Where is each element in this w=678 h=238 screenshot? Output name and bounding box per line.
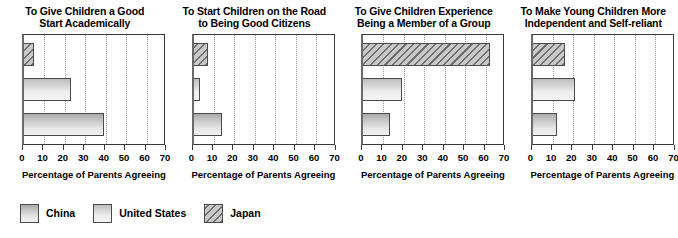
- axis-tick: [124, 145, 125, 150]
- x-axis-label: Percentage of Parents Agreeing: [192, 166, 340, 180]
- chart-panel: To Make Young Children MoreIndependent a…: [509, 0, 678, 192]
- axis-tick-label: 60: [309, 152, 320, 163]
- axis-tick: [212, 145, 213, 150]
- axis-tick: [253, 145, 254, 150]
- plot-frame: [192, 34, 335, 145]
- axis-tick-label: 50: [458, 152, 469, 163]
- bar-group: [533, 35, 673, 144]
- panel-title-line: Start Academically: [6, 17, 164, 29]
- x-axis-label: Percentage of Parents Agreeing: [22, 166, 170, 180]
- axis-tick-label: 30: [417, 152, 428, 163]
- bar-us: [533, 78, 576, 101]
- bar-china: [533, 113, 558, 136]
- bar-china: [194, 113, 223, 136]
- axis-tick-label: 40: [607, 152, 618, 163]
- panel-title: To Start Children on the Roadto Being Go…: [170, 0, 340, 34]
- chart-panel: To Give Children ExperienceBeing a Membe…: [339, 0, 509, 192]
- plot-frame: [361, 34, 504, 145]
- axis-tick: [633, 145, 634, 150]
- bar-group: [194, 35, 334, 144]
- axis-tick: [484, 145, 485, 150]
- axis-tick-label: 60: [478, 152, 489, 163]
- axis-tick: [531, 145, 532, 150]
- axis-tick: [443, 145, 444, 150]
- chart-panel-row: To Give Children a GoodStart Academicall…: [0, 0, 678, 192]
- legend-item-japan: Japan: [204, 204, 260, 223]
- chart-panel: To Start Children on the Roadto Being Go…: [170, 0, 340, 192]
- axis-tick: [402, 145, 403, 150]
- axis-tick: [22, 145, 23, 150]
- axis-tick: [571, 145, 572, 150]
- axis-tick-label: 30: [586, 152, 597, 163]
- plot-frame: [531, 34, 674, 145]
- axis-tick: [273, 145, 274, 150]
- axis-tick-label: 50: [288, 152, 299, 163]
- bar-group: [24, 35, 164, 144]
- bar-us: [24, 78, 71, 101]
- panel-title-line: To Start Children on the Road: [176, 5, 334, 17]
- axis-tick: [294, 145, 295, 150]
- axis-tick: [104, 145, 105, 150]
- axis-tick-label: 60: [139, 152, 150, 163]
- chart-legend: ChinaUnited StatesJapan: [0, 196, 678, 230]
- axis-tick-label: 30: [247, 152, 258, 163]
- axis-tick-label: 40: [268, 152, 279, 163]
- axis-tick-label: 20: [227, 152, 238, 163]
- panel-title: To Make Young Children MoreIndependent a…: [509, 0, 678, 34]
- plot-area: [192, 34, 335, 145]
- x-axis-label: Percentage of Parents Agreeing: [361, 166, 509, 180]
- axis-tick: [165, 145, 166, 150]
- legend-item-us: United States: [93, 204, 186, 223]
- bar-japan: [194, 43, 208, 66]
- legend-label: China: [46, 207, 75, 219]
- x-axis-ticks: [531, 145, 674, 152]
- legend-label: United States: [119, 207, 186, 219]
- plot-area: [361, 34, 504, 145]
- axis-tick-label: 50: [627, 152, 638, 163]
- axis-tick-label: 20: [566, 152, 577, 163]
- plot-area: [22, 34, 165, 145]
- axis-tick: [63, 145, 64, 150]
- panel-title-line: To Give Children Experience: [345, 5, 503, 17]
- legend-swatch-us: [93, 204, 112, 223]
- axis-tick-label: 70: [668, 152, 678, 163]
- legend-label: Japan: [230, 207, 260, 219]
- axis-tick-label: 0: [358, 152, 363, 163]
- axis-tick: [361, 145, 362, 150]
- chart-panel: To Give Children a GoodStart Academicall…: [0, 0, 170, 192]
- panel-title-line: To Make Young Children More: [515, 5, 673, 17]
- axis-tick-label: 50: [119, 152, 130, 163]
- bar-china: [363, 113, 390, 136]
- axis-tick: [381, 145, 382, 150]
- panel-title-line: To Give Children a Good: [6, 5, 164, 17]
- x-axis-label: Percentage of Parents Agreeing: [531, 166, 678, 180]
- bar-china: [24, 113, 104, 136]
- axis-tick-label: 40: [437, 152, 448, 163]
- x-axis-tick-labels: 010203040506070: [531, 152, 674, 166]
- axis-tick: [145, 145, 146, 150]
- axis-tick: [422, 145, 423, 150]
- panel-title: To Give Children a GoodStart Academicall…: [0, 0, 170, 34]
- panel-title: To Give Children ExperienceBeing a Membe…: [339, 0, 509, 34]
- axis-tick: [42, 145, 43, 150]
- axis-tick: [335, 145, 336, 150]
- axis-tick-label: 20: [58, 152, 69, 163]
- plot-frame: [22, 34, 165, 145]
- axis-tick-label: 10: [37, 152, 48, 163]
- axis-tick-label: 60: [648, 152, 659, 163]
- axis-tick-label: 30: [78, 152, 89, 163]
- axis-tick-label: 0: [528, 152, 533, 163]
- axis-tick: [83, 145, 84, 150]
- chart-figure: To Give Children a GoodStart Academicall…: [0, 0, 678, 238]
- axis-tick-label: 0: [189, 152, 194, 163]
- bar-group: [363, 35, 503, 144]
- bar-us: [363, 78, 402, 101]
- panel-title-line: to Being Good Citizens: [176, 17, 334, 29]
- bar-japan: [363, 43, 490, 66]
- x-axis-tick-labels: 010203040506070: [192, 152, 335, 166]
- axis-tick: [592, 145, 593, 150]
- x-axis-ticks: [22, 145, 165, 152]
- axis-tick-label: 0: [19, 152, 24, 163]
- axis-tick: [653, 145, 654, 150]
- axis-tick-label: 10: [376, 152, 387, 163]
